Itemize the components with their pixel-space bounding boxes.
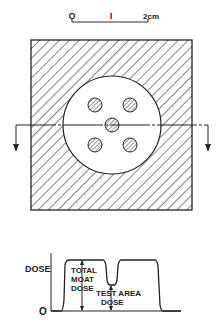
y-axis-label: DOSE: [25, 264, 51, 274]
implant-spot: [123, 98, 137, 112]
total-moat-label-line3: DOSE: [71, 284, 94, 293]
implant-spot: [88, 98, 102, 112]
implant-spot: [88, 138, 102, 152]
implant-spot: [123, 138, 137, 152]
dose-profile-chart: DOSE O TOTAL MOAT DOSE TEST AREA DOSE: [25, 253, 181, 317]
zero-label: O: [39, 306, 47, 317]
arrow-down-icon: [13, 144, 19, 152]
test-area-label-line1: TEST AREA: [96, 289, 141, 298]
scale-bar: O I 2cm: [68, 11, 159, 22]
scale-tick-1: I: [110, 11, 113, 21]
total-moat-label-line1: TOTAL: [71, 266, 97, 275]
total-moat-label-line2: MOAT: [71, 275, 94, 284]
arrow-down-icon: [205, 144, 211, 152]
test-area-label-line2: DOSE: [101, 298, 124, 307]
scale-tick-0: O: [68, 11, 75, 21]
scale-tick-2: 2cm: [143, 12, 159, 21]
diagram: O I 2cm DOSE O TOTAL MOAT DOSE: [0, 0, 218, 322]
